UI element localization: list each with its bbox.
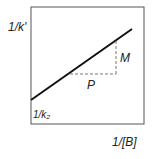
x-axis-label: 1/[B]	[112, 135, 137, 149]
rise-label: M	[120, 51, 130, 65]
y-axis-label: 1/k'	[8, 20, 27, 34]
y-intercept-label: 1/k₂	[33, 109, 50, 120]
run-label: P	[87, 78, 95, 92]
regression-line	[31, 29, 132, 100]
plot-frame	[31, 7, 144, 124]
diagram-canvas: 1/k' 1/k₂ 1/[B] M P	[0, 0, 153, 159]
